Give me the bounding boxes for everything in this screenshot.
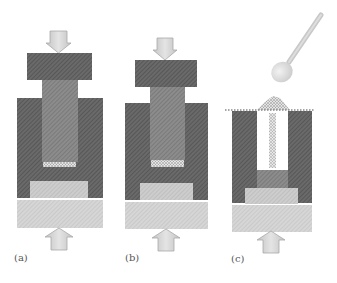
down-arrow-icon <box>153 38 177 60</box>
lower-punch <box>245 188 298 204</box>
falling-powder <box>269 113 276 168</box>
panel-label-b: (b) <box>125 252 139 263</box>
upper-platen <box>135 60 197 87</box>
powder-compaction-diagram <box>0 0 337 283</box>
up-arrow-icon <box>45 228 73 250</box>
up-arrow-icon <box>257 231 285 253</box>
down-arrow-icon <box>46 31 71 53</box>
spoon-icon <box>267 15 321 86</box>
lower-punch <box>140 183 193 200</box>
up-arrow-icon <box>152 229 180 251</box>
powder-compact <box>43 162 76 167</box>
powder-compact <box>151 160 184 167</box>
upper-punch <box>42 80 78 162</box>
upper-punch <box>150 87 185 160</box>
base-plate <box>125 202 208 229</box>
powder-mound <box>257 96 290 110</box>
panel-label-c: (c) <box>231 253 244 264</box>
base-plate <box>17 200 103 228</box>
panel-c <box>225 15 321 253</box>
panel-label-a: (a) <box>14 252 28 263</box>
panel-b <box>125 38 208 251</box>
lower-punch-core <box>257 170 288 188</box>
upper-platen <box>27 53 92 80</box>
base-plate <box>232 205 312 232</box>
panel-a <box>17 31 103 250</box>
lower-punch <box>30 181 88 198</box>
